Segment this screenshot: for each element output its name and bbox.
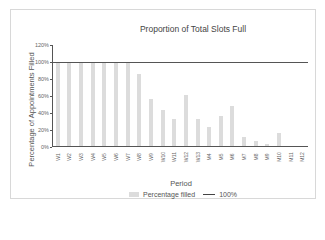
bar-slot: W4 <box>87 45 99 147</box>
bar-slot: W3 <box>75 45 87 147</box>
bar <box>114 63 118 147</box>
bar-slot: M11 <box>285 45 297 147</box>
legend: Percentage filled 100% <box>129 191 237 198</box>
x-tick-label: M7 <box>241 154 247 161</box>
y-tick-label: 20% <box>38 127 49 133</box>
y-tick-mark <box>50 45 52 46</box>
bar <box>172 119 176 147</box>
bar-slot: W13 <box>192 45 204 147</box>
bar <box>79 63 83 147</box>
x-tick-label: M12 <box>299 152 305 162</box>
bar-slot: W10 <box>157 45 169 147</box>
x-tick-label: W8 <box>136 153 142 161</box>
x-tick-label: M6 <box>229 154 235 161</box>
x-tick-label: W3 <box>78 153 84 161</box>
y-tick-mark <box>50 113 52 114</box>
bar-slot: W6 <box>110 45 122 147</box>
bar-slot: M7 <box>238 45 250 147</box>
legend-bar-label: Percentage filled <box>143 191 195 198</box>
x-tick-label: W6 <box>113 153 119 161</box>
bar-slot: M6 <box>227 45 239 147</box>
x-tick-label: W12 <box>183 152 189 162</box>
bar <box>91 63 95 147</box>
bar-slot: W1 <box>52 45 64 147</box>
bar-slot: W8 <box>133 45 145 147</box>
bar <box>219 116 223 147</box>
bar <box>184 95 188 147</box>
y-tick-mark <box>50 130 52 131</box>
bar-slot: W7 <box>122 45 134 147</box>
bar-slot: M8 <box>250 45 262 147</box>
y-tick-mark <box>50 79 52 80</box>
bar-slot: M9 <box>262 45 274 147</box>
bar <box>102 63 106 147</box>
x-tick-label: M9 <box>264 154 270 161</box>
x-tick-label: W9 <box>148 153 154 161</box>
y-tick-mark <box>50 147 52 148</box>
chart-title: Proportion of Total Slots Full <box>41 24 325 34</box>
x-axis-title: Period <box>29 179 325 188</box>
bar-slot: M4 <box>203 45 215 147</box>
y-axis <box>52 45 53 147</box>
bar-slot: W9 <box>145 45 157 147</box>
y-tick-label: 100% <box>35 59 49 65</box>
x-tick-label: W2 <box>66 153 72 161</box>
x-tick-label: M10 <box>276 152 282 162</box>
y-tick-label: 0% <box>41 144 49 150</box>
legend-line-label: 100% <box>219 191 237 198</box>
bar-slot: M5 <box>215 45 227 147</box>
x-tick-label: W11 <box>171 152 177 162</box>
bar <box>230 106 234 147</box>
bar <box>277 133 281 147</box>
bar <box>56 63 60 147</box>
x-tick-label: W5 <box>101 153 107 161</box>
y-tick-mark <box>50 96 52 97</box>
x-tick-label: W4 <box>90 153 96 161</box>
legend-line-swatch <box>203 194 215 195</box>
y-tick-label: 120% <box>35 42 49 48</box>
y-tick-label: 60% <box>38 93 49 99</box>
bar <box>149 99 153 147</box>
bar <box>196 119 200 147</box>
x-tick-label: W1 <box>55 153 61 161</box>
y-tick-mark <box>50 62 52 63</box>
bar <box>161 110 165 147</box>
reference-line-100 <box>52 62 308 63</box>
bar-slot: W12 <box>180 45 192 147</box>
bar-slot: W2 <box>64 45 76 147</box>
legend-bar-swatch <box>129 192 139 197</box>
x-axis <box>52 146 308 147</box>
bar <box>207 127 211 147</box>
bar-series: W1W2W3W4W5W6W7W8W9W10W11W12W13M4M5M6M7M8… <box>52 45 308 147</box>
bar-slot: W11 <box>168 45 180 147</box>
y-axis-title: Percentage of Appointments Filled <box>27 50 36 170</box>
x-tick-label: W10 <box>160 152 166 162</box>
y-tick-label: 80% <box>38 76 49 82</box>
bar-slot: W5 <box>99 45 111 147</box>
x-tick-label: W13 <box>195 152 201 162</box>
x-tick-label: M11 <box>288 152 294 161</box>
x-tick-label: M5 <box>218 154 224 161</box>
bar <box>137 74 141 147</box>
y-tick-label: 40% <box>38 110 49 116</box>
plot-area: W1W2W3W4W5W6W7W8W9W10W11W12W13M4M5M6M7M8… <box>52 45 308 147</box>
x-tick-label: W7 <box>125 153 131 161</box>
x-tick-label: M4 <box>206 154 212 161</box>
bar-slot: M10 <box>273 45 285 147</box>
bar <box>126 63 130 147</box>
bar-slot: M12 <box>296 45 308 147</box>
x-tick-label: M8 <box>253 154 259 161</box>
bar <box>67 63 71 147</box>
